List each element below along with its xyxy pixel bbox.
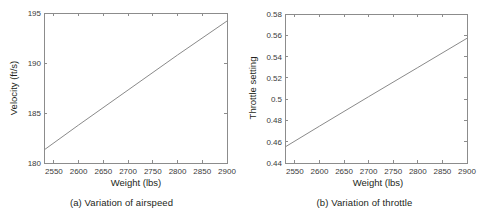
x-axis-title-a: Weight (lbs) <box>111 177 162 188</box>
plot-frame <box>286 15 468 164</box>
x-tick-label: 2800 <box>409 167 427 176</box>
x-tick-label: 2850 <box>193 167 211 176</box>
y-tick-label: 0.54 <box>266 53 282 62</box>
y-axis-title-b: Throttle setting <box>247 57 258 120</box>
y-tick-label: 0.56 <box>266 31 282 40</box>
x-tick-label: 2750 <box>144 167 162 176</box>
panel-caption-b: (b) Variation of throttle <box>243 196 486 209</box>
x-tick-label: 2600 <box>70 167 88 176</box>
figure-root: 2550260026502700275028002850290018018519… <box>0 0 486 224</box>
chart-plot-area-a: 2550260026502700275028002850290018018519… <box>28 9 237 176</box>
figure-panel-a: 2550260026502700275028002850290018018519… <box>0 0 243 224</box>
x-axis-title-b: Weight (lbs) <box>353 177 404 188</box>
x-tick-label: 2600 <box>311 167 329 176</box>
x-tick-label: 2850 <box>434 167 452 176</box>
x-tick-label: 2700 <box>119 167 137 176</box>
x-tick-label: 2650 <box>335 167 353 176</box>
panel-caption-a: (a) Variation of airspeed <box>0 196 243 209</box>
figure-panel-b: 255026002650270027502800285029000.440.46… <box>243 0 486 224</box>
y-tick-label: 180 <box>28 159 42 168</box>
x-tick-label: 2800 <box>169 167 187 176</box>
x-tick-label: 2550 <box>45 167 63 176</box>
y-tick-label: 0.5 <box>271 95 283 104</box>
chart-throttle: 255026002650270027502800285029000.440.46… <box>243 0 486 198</box>
y-tick-label: 0.46 <box>266 138 282 147</box>
plot-frame <box>45 14 228 164</box>
y-tick-label: 0.58 <box>266 10 282 19</box>
y-tick-label: 195 <box>28 9 42 18</box>
x-tick-label: 2750 <box>384 167 402 176</box>
x-tick-label: 2650 <box>94 167 112 176</box>
data-series-line <box>44 21 227 150</box>
x-tick-label: 2900 <box>218 167 236 176</box>
y-tick-label: 0.52 <box>266 74 282 83</box>
y-tick-label: 190 <box>28 59 42 68</box>
x-tick-label: 2550 <box>286 167 304 176</box>
y-tick-label: 185 <box>28 109 42 118</box>
x-tick-label: 2900 <box>458 167 476 176</box>
y-tick-label: 0.48 <box>266 116 282 125</box>
chart-airspeed: 2550260026502700275028002850290018018519… <box>0 0 243 198</box>
chart-plot-area-b: 255026002650270027502800285029000.440.46… <box>266 10 476 176</box>
y-axis-title-a: Velocity (ft/s) <box>8 61 19 115</box>
data-series-line <box>285 38 467 147</box>
x-tick-label: 2700 <box>360 167 378 176</box>
y-tick-label: 0.44 <box>266 159 282 168</box>
